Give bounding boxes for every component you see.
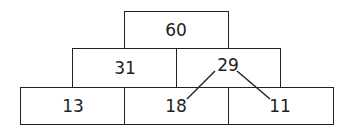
value-middle-1: 31 <box>114 60 136 77</box>
value-middle-2: 29 <box>217 57 239 74</box>
value-top: 60 <box>165 22 187 39</box>
connector-29-to-11 <box>237 71 270 99</box>
value-bottom-2: 18 <box>165 98 187 115</box>
number-pyramid: 60 31 29 13 18 11 <box>0 0 344 132</box>
connector-29-to-18 <box>187 71 215 99</box>
value-bottom-1: 13 <box>62 98 84 115</box>
value-bottom-3: 11 <box>269 98 291 115</box>
